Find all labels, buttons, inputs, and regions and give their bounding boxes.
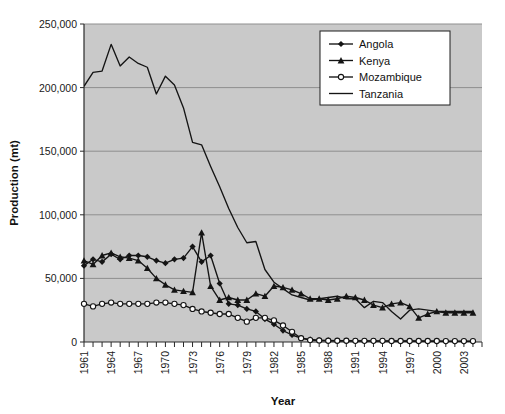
series-marker-mozambique (271, 318, 276, 323)
x-tick-label-group: 1994 (377, 351, 389, 375)
series-marker-mozambique (244, 319, 249, 324)
y-tick-label: 50,000 (45, 272, 77, 284)
series-marker-mozambique (136, 301, 141, 306)
series-marker-mozambique (280, 323, 285, 328)
series-marker-mozambique (235, 315, 240, 320)
y-tick-label: 0 (71, 336, 77, 348)
legend-label-tanzania: Tanzania (359, 88, 404, 100)
x-tick-label: 1985 (295, 351, 307, 375)
x-tick-label: 1982 (268, 351, 280, 375)
series-marker-mozambique (199, 309, 204, 314)
x-tick-label: 1961 (78, 351, 90, 375)
series-marker-mozambique (118, 301, 123, 306)
series-marker-mozambique (190, 306, 195, 311)
x-tick-label-group: 1973 (187, 351, 199, 375)
x-axis-title: Year (271, 395, 296, 407)
series-marker-mozambique (308, 337, 313, 342)
legend-label-angola: Angola (359, 38, 394, 50)
production-line-chart: 050,000100,000150,000200,000250,00019611… (0, 0, 505, 414)
y-axis-title: Production (mt) (8, 140, 20, 226)
series-marker-mozambique (470, 339, 475, 344)
x-tick-label-group: 1985 (295, 351, 307, 375)
series-marker-mozambique (109, 300, 114, 305)
series-marker-mozambique (434, 338, 439, 343)
series-marker-mozambique (145, 301, 150, 306)
x-tick-label-group: 1988 (322, 351, 334, 375)
series-marker-mozambique (289, 329, 294, 334)
series-marker-mozambique (335, 338, 340, 343)
series-marker-mozambique (226, 311, 231, 316)
series-marker-mozambique (326, 338, 331, 343)
y-tick-label: 200,000 (39, 82, 77, 94)
x-tick-label-group: 1979 (241, 351, 253, 375)
x-tick-label: 1976 (214, 351, 226, 375)
x-tick-label: 1988 (322, 351, 334, 375)
series-marker-mozambique (208, 310, 213, 315)
x-tick-label: 1991 (349, 351, 361, 375)
x-tick-label-group: 2003 (458, 351, 470, 375)
series-marker-mozambique (443, 339, 448, 344)
series-marker-mozambique (154, 300, 159, 305)
series-marker-mozambique (317, 338, 322, 343)
x-tick-label-group: 1961 (78, 351, 90, 375)
x-tick-label: 1964 (105, 351, 117, 375)
series-marker-mozambique (298, 336, 303, 341)
x-tick-label-group: 1991 (349, 351, 361, 375)
series-marker-mozambique (163, 300, 168, 305)
x-tick-label: 1970 (159, 351, 171, 375)
x-tick-label-group: 1982 (268, 351, 280, 375)
y-tick-label: 250,000 (39, 18, 77, 30)
series-marker-mozambique (81, 301, 86, 306)
legend: AngolaKenyaMozambiqueTanzania (320, 31, 450, 105)
x-tick-label-group: 1967 (132, 351, 144, 375)
legend-label-kenya: Kenya (359, 55, 391, 67)
series-marker-mozambique (461, 339, 466, 344)
series-marker-mozambique (353, 338, 358, 343)
legend-label-mozambique: Mozambique (359, 71, 422, 83)
x-tick-label: 1967 (132, 351, 144, 375)
x-tick-label-group: 2000 (431, 351, 443, 375)
y-tick-label: 150,000 (39, 145, 77, 157)
series-marker-mozambique (362, 338, 367, 343)
series-marker-mozambique (452, 339, 457, 344)
x-tick-label-group: 1964 (105, 351, 117, 375)
y-tick-label: 100,000 (39, 209, 77, 221)
x-tick-label: 1997 (404, 351, 416, 375)
series-marker-mozambique (389, 338, 394, 343)
series-marker-mozambique (181, 303, 186, 308)
x-tick-label: 1994 (377, 351, 389, 375)
series-marker-mozambique (416, 338, 421, 343)
series-marker-mozambique (99, 301, 104, 306)
x-tick-label-group: 1976 (214, 351, 226, 375)
series-marker-mozambique (127, 301, 132, 306)
series-marker-mozambique (398, 338, 403, 343)
series-marker-mozambique (172, 301, 177, 306)
x-tick-label-group: 1997 (404, 351, 416, 375)
y-axis-title-group: Production (mt) (8, 140, 20, 226)
x-tick-label: 2000 (431, 351, 443, 375)
legend-marker-circle (338, 74, 343, 79)
series-marker-mozambique (90, 304, 95, 309)
x-tick-label-group: 1970 (159, 351, 171, 375)
x-tick-label: 1973 (187, 351, 199, 375)
series-marker-mozambique (344, 338, 349, 343)
series-marker-mozambique (262, 315, 267, 320)
series-marker-mozambique (217, 311, 222, 316)
series-marker-mozambique (380, 338, 385, 343)
series-marker-mozambique (425, 338, 430, 343)
series-marker-mozambique (371, 338, 376, 343)
x-tick-label: 2003 (458, 351, 470, 375)
chart-figure: 050,000100,000150,000200,000250,00019611… (0, 0, 505, 414)
x-tick-label: 1979 (241, 351, 253, 375)
series-marker-mozambique (407, 338, 412, 343)
series-marker-mozambique (253, 315, 258, 320)
